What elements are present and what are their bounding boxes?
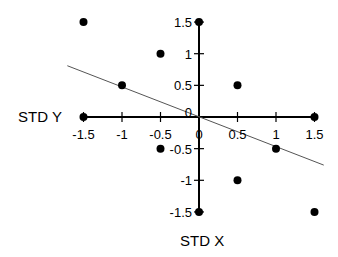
data-point (234, 176, 242, 184)
data-point (80, 18, 88, 26)
y-tick-label: -0.5 (170, 141, 192, 156)
data-point (272, 145, 280, 153)
y-tick-label: -1 (180, 173, 192, 188)
data-point (195, 208, 203, 216)
data-point (311, 113, 319, 121)
data-point (195, 18, 203, 26)
data-point (157, 50, 165, 58)
x-tick-label: 1 (272, 127, 279, 142)
x-tick-label: -1 (116, 127, 128, 142)
x-tick-label: 1.5 (305, 127, 323, 142)
data-point (80, 113, 88, 121)
y-axis-title: STD Y (18, 108, 62, 125)
y-tick-label: 1 (185, 46, 192, 61)
data-point (311, 208, 319, 216)
x-tick-label: -0.5 (149, 127, 171, 142)
x-tick-label: 0 (195, 127, 202, 142)
y-tick-label: 1.5 (174, 15, 192, 30)
x-tick-label: -1.5 (72, 127, 94, 142)
data-point (118, 81, 126, 89)
x-tick-label: 0.5 (228, 127, 246, 142)
data-point (234, 81, 242, 89)
regression-line (67, 66, 323, 165)
y-tick-label: 0 (185, 105, 192, 120)
x-axis-title: STD X (180, 232, 224, 249)
data-point (157, 145, 165, 153)
y-tick-label: 0.5 (174, 78, 192, 93)
y-tick-label: -1.5 (170, 204, 192, 219)
